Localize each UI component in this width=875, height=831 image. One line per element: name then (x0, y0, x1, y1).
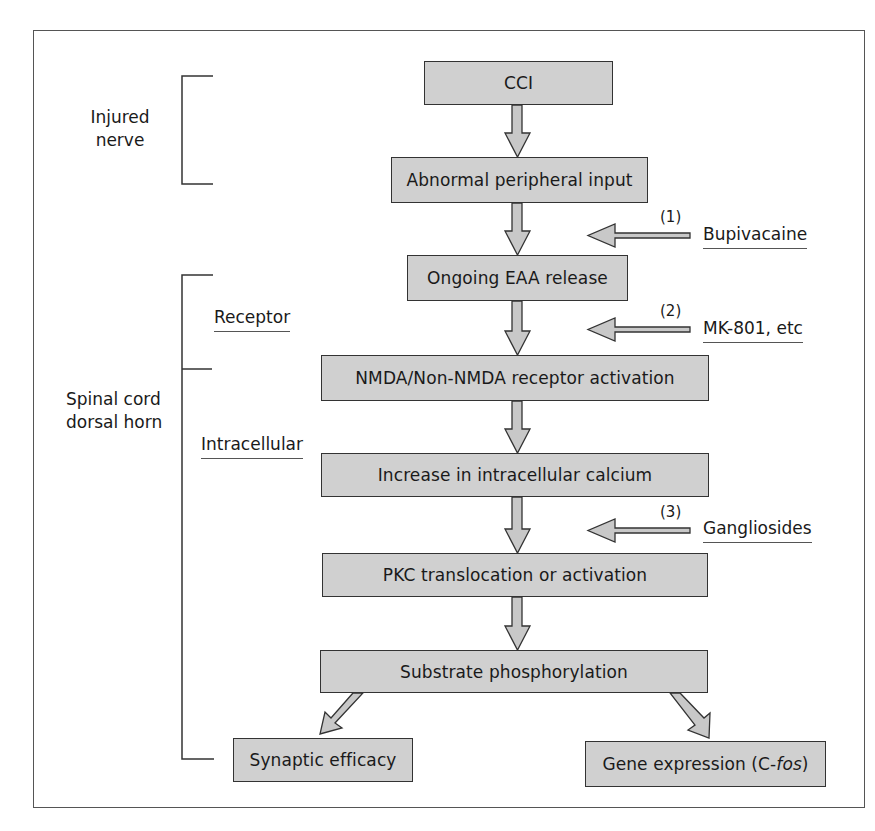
node-abnormal-label: Abnormal peripheral input (406, 170, 632, 190)
node-substrate-label: Substrate phosphorylation (400, 662, 628, 682)
spinal-cord-line-1: Spinal cord (66, 388, 162, 411)
node-substrate-phosphorylation: Substrate phosphorylation (320, 650, 708, 693)
injured-nerve-line-1: Injured (80, 106, 160, 129)
node-nmda-label: NMDA/Non-NMDA receptor activation (355, 368, 674, 388)
inhibitor-1-number: (1) (660, 208, 681, 226)
node-pkc-translocation: PKC translocation or activation (322, 553, 708, 597)
spinal-cord-line-2: dorsal horn (66, 411, 162, 434)
inhibitor-3-label: Gangliosides (703, 517, 812, 543)
spinal-cord-label: Spinal cord dorsal horn (66, 388, 162, 434)
node-gene-label-suffix: ) (802, 754, 809, 774)
node-gene-label-italic: fos (776, 754, 802, 774)
node-intracellular-calcium: Increase in intracellular calcium (321, 453, 709, 497)
inhibitor-2-number: (2) (660, 302, 681, 320)
node-ongoing-eaa-release: Ongoing EAA release (407, 255, 628, 301)
node-cci-label: CCI (504, 73, 533, 93)
inhibitor-3-number: (3) (660, 503, 681, 521)
injured-nerve-label: Injured nerve (80, 106, 160, 152)
intracellular-label: Intracellular (201, 433, 303, 459)
node-cci: CCI (424, 61, 613, 105)
inhibitor-1-label: Bupivacaine (703, 223, 807, 249)
node-gene-label: Gene expression (C-fos) (602, 754, 808, 774)
receptor-label: Receptor (214, 306, 290, 332)
node-synaptic-efficacy: Synaptic efficacy (233, 738, 413, 782)
node-abnormal-peripheral-input: Abnormal peripheral input (391, 157, 648, 203)
node-gene-expression: Gene expression (C-fos) (585, 741, 826, 787)
node-synaptic-label: Synaptic efficacy (250, 750, 397, 770)
node-pkc-label: PKC translocation or activation (383, 565, 647, 585)
node-nmda-receptor-activation: NMDA/Non-NMDA receptor activation (321, 355, 709, 401)
inhibitor-2-label: MK-801, etc (703, 317, 803, 343)
node-eaa-label: Ongoing EAA release (427, 268, 608, 288)
node-calcium-label: Increase in intracellular calcium (378, 465, 653, 485)
injured-nerve-line-2: nerve (80, 129, 160, 152)
node-gene-label-prefix: Gene expression (C- (602, 754, 776, 774)
